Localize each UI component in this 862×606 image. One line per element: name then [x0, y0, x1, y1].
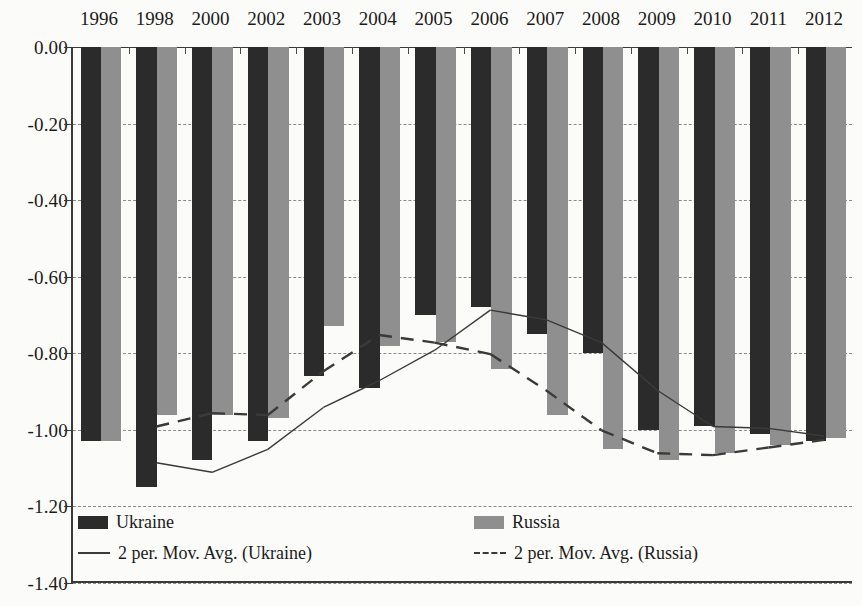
bar-russia-2007 — [547, 47, 567, 415]
bar-russia-1998 — [157, 47, 177, 415]
x-tick-label: 2002 — [247, 8, 285, 30]
x-axis-labels: 1996199820002002200320042005200620072008… — [0, 8, 862, 34]
bar-russia-2002 — [268, 47, 288, 418]
bar-ukraine-2009 — [638, 47, 658, 430]
legend-item-movavg-ukraine: 2 per. Mov. Avg. (Ukraine) — [78, 543, 312, 563]
bar-ukraine-1996 — [81, 47, 101, 441]
bar-ukraine-2011 — [750, 47, 770, 434]
y-tick-mark — [64, 47, 73, 48]
chart-legend: Ukraine Russia 2 per. Mov. Avg. (Ukraine… — [78, 512, 848, 574]
y-tick-label: -0.80 — [10, 344, 68, 363]
bar-ukraine-2008 — [583, 47, 603, 353]
y-tick-label: -1.00 — [10, 420, 68, 439]
bar-russia-2012 — [826, 47, 846, 438]
x-tick-label: 2000 — [191, 8, 229, 30]
bar-ukraine-2005 — [415, 47, 435, 315]
x-tick-label: 2010 — [694, 8, 732, 30]
x-tick-label: 2011 — [750, 8, 787, 30]
bar-russia-2003 — [324, 47, 344, 326]
legend-item-ukraine: Ukraine — [78, 512, 174, 532]
y-tick-label: -1.40 — [10, 574, 68, 593]
legend-item-russia: Russia — [474, 512, 560, 532]
x-tick-label: 2006 — [470, 8, 508, 30]
legend-item-movavg-russia: 2 per. Mov. Avg. (Russia) — [474, 543, 698, 563]
bar-ukraine-2000 — [192, 47, 212, 460]
chart-container: 1996199820002002200320042005200620072008… — [0, 0, 862, 606]
x-tick-label: 1996 — [80, 8, 118, 30]
x-tick-label: 2009 — [638, 8, 676, 30]
y-tick-mark — [64, 583, 73, 584]
x-tick-label: 2003 — [303, 8, 341, 30]
bar-russia-2005 — [436, 47, 456, 342]
y-tick-mark — [64, 200, 73, 201]
y-tick-label: -0.40 — [10, 191, 68, 210]
y-tick-label: -0.60 — [10, 267, 68, 286]
x-tick-label: 1998 — [136, 8, 174, 30]
bar-ukraine-2006 — [471, 47, 491, 307]
legend-solid-line-icon — [78, 552, 110, 554]
y-tick-mark — [64, 353, 73, 354]
bar-russia-2009 — [659, 47, 679, 460]
bar-ukraine-2004 — [359, 47, 379, 388]
y-tick-label: -1.20 — [10, 497, 68, 516]
legend-label-movavg-russia: 2 per. Mov. Avg. (Russia) — [514, 543, 698, 563]
legend-label-russia: Russia — [512, 512, 560, 532]
bar-russia-2000 — [212, 47, 232, 415]
bar-ukraine-2010 — [694, 47, 714, 426]
y-tick-label: 0.00 — [10, 38, 68, 57]
y-tick-mark — [64, 430, 73, 431]
x-tick-label: 2004 — [359, 8, 397, 30]
legend-row-series: Ukraine Russia — [78, 512, 848, 538]
y-tick-mark — [64, 124, 73, 125]
y-tick-mark — [64, 506, 73, 507]
bar-russia-2008 — [603, 47, 623, 449]
y-tick-mark — [64, 277, 73, 278]
bar-ukraine-2012 — [806, 47, 826, 441]
x-tick-label: 2012 — [805, 8, 843, 30]
legend-swatch-ukraine-icon — [78, 516, 108, 529]
y-tick-label: -0.20 — [10, 114, 68, 133]
bar-russia-2004 — [380, 47, 400, 346]
y-axis-labels: 0.00-0.20-0.40-0.60-0.80-1.00-1.20-1.40 — [0, 0, 68, 606]
bars-layer — [73, 47, 852, 581]
bar-ukraine-1998 — [136, 47, 156, 487]
legend-row-trendlines: 2 per. Mov. Avg. (Ukraine) 2 per. Mov. A… — [78, 543, 848, 569]
legend-label-movavg-ukraine: 2 per. Mov. Avg. (Ukraine) — [118, 543, 312, 563]
bar-russia-1996 — [101, 47, 121, 441]
gridline — [73, 583, 852, 584]
legend-label-ukraine: Ukraine — [116, 512, 174, 532]
bar-ukraine-2002 — [248, 47, 268, 441]
bar-russia-2006 — [491, 47, 511, 369]
bar-ukraine-2007 — [527, 47, 547, 334]
bar-ukraine-2003 — [304, 47, 324, 376]
legend-swatch-russia-icon — [474, 516, 504, 529]
bar-russia-2010 — [715, 47, 735, 453]
x-tick-label: 2005 — [415, 8, 453, 30]
plot-area — [71, 47, 852, 583]
x-tick-label: 2007 — [526, 8, 564, 30]
legend-dashed-line-icon — [474, 552, 506, 554]
bar-russia-2011 — [770, 47, 790, 445]
x-tick-label: 2008 — [582, 8, 620, 30]
